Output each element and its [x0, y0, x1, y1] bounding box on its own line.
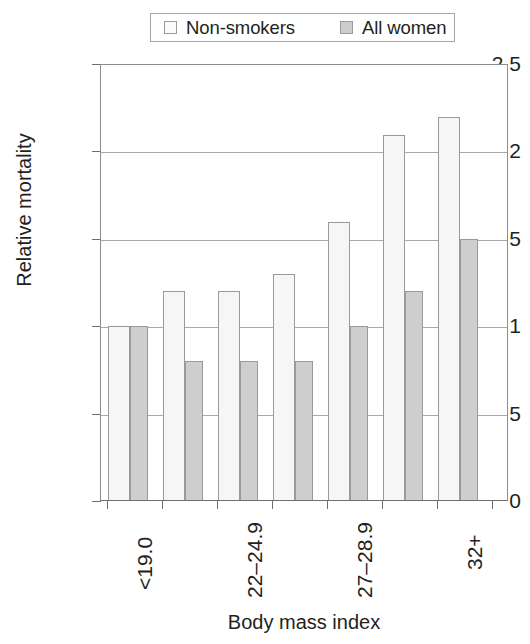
bar-all-women-3[interactable]	[295, 361, 313, 500]
relative-mortality-bar-chart: Non-smokers All women 2.5 2 1.5 1 0.5 0 …	[0, 0, 530, 644]
bar-non-smokers-4[interactable]	[328, 222, 350, 500]
bar-all-women-0[interactable]	[130, 326, 148, 500]
x-tick-mark-7	[492, 501, 493, 509]
y-axis-title: Relative mortality	[14, 80, 34, 340]
bar-non-smokers-0[interactable]	[108, 326, 130, 500]
bar-non-smokers-3[interactable]	[273, 274, 295, 500]
legend-swatch-all-women-icon	[340, 21, 353, 34]
x-tick-mark-6	[437, 501, 438, 509]
bar-all-women-1[interactable]	[185, 361, 203, 500]
x-tick-mark-0	[107, 501, 108, 509]
bar-non-smokers-6[interactable]	[438, 117, 460, 500]
bar-all-women-4[interactable]	[350, 326, 368, 500]
legend-label-non-smokers: Non-smokers	[186, 19, 295, 37]
legend-label-all-women: All women	[362, 19, 446, 37]
x-tick-mark-1	[162, 501, 163, 509]
x-tick-mark-3	[272, 501, 273, 509]
plot-area	[100, 64, 508, 501]
bar-all-women-6[interactable]	[460, 239, 478, 500]
x-tick-mark-2	[217, 501, 218, 509]
bar-non-smokers-1[interactable]	[163, 291, 185, 500]
bar-non-smokers-2[interactable]	[218, 291, 240, 500]
legend-item-all-women[interactable]: All women	[340, 14, 446, 41]
y-tick-mark-0	[92, 501, 101, 502]
x-tick-mark-4	[327, 501, 328, 509]
bar-all-women-2[interactable]	[240, 361, 258, 500]
x-tick-label-group-0: <19.0	[134, 537, 155, 590]
legend-swatch-non-smokers-icon	[164, 21, 177, 34]
x-tick-label-group-6: 32+	[464, 534, 485, 570]
x-tick-mark-5	[382, 501, 383, 509]
x-tick-label-group-2: 22–24.9	[244, 522, 265, 598]
x-axis-title: Body mass index	[100, 612, 508, 632]
bar-all-women-5[interactable]	[405, 291, 423, 500]
chart-legend: Non-smokers All women	[150, 13, 455, 42]
legend-item-non-smokers[interactable]: Non-smokers	[164, 14, 295, 41]
bar-non-smokers-5[interactable]	[383, 135, 405, 500]
bars-layer	[101, 65, 507, 500]
x-tick-label-group-4: 27–28.9	[354, 522, 375, 598]
